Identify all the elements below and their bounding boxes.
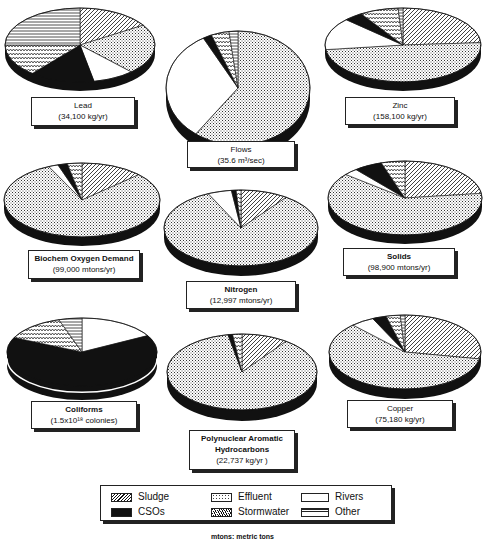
csos-swatch-icon	[111, 508, 132, 517]
legend-label: Effluent	[238, 491, 272, 503]
pie-copper	[329, 315, 481, 399]
chart-total: (98,900 mtons/yr)	[346, 262, 452, 273]
legend-item-stormwater: Stormwater	[211, 506, 289, 518]
chart-total: (75,180 kg/yr)	[350, 414, 450, 425]
chart-total: (12,997 mtons/yr)	[189, 295, 293, 306]
pie-nitrogen	[164, 190, 318, 276]
legend-item-other: Other	[301, 506, 360, 518]
chart-total: (35.6 m³/sec)	[190, 155, 292, 166]
legend-label: Stormwater	[238, 506, 289, 518]
legend-label: CSOs	[138, 506, 165, 518]
footnote: mtons: metric tons	[0, 533, 485, 540]
chart-title: Polynuclear Aromatic	[192, 433, 292, 444]
label-zinc: Zinc (158,100 kg/yr)	[345, 97, 455, 125]
pie-solids	[328, 161, 482, 244]
pie-lead	[5, 8, 155, 91]
label-nitrogen: Nitrogen (12,997 mtons/yr)	[186, 281, 296, 309]
pie-polynuclear-aromatic-hydrocarbons	[167, 334, 317, 421]
chart-title: Zinc	[348, 100, 452, 111]
chart-title: Flows	[190, 144, 292, 155]
chart-title: Copper	[350, 403, 450, 414]
chart-title-line2: Hydrocarbons	[192, 444, 292, 455]
label-copper: Copper (75,180 kg/yr)	[347, 400, 453, 428]
chart-title: Biochem Oxygen Demand	[31, 253, 137, 264]
effluent-swatch-icon	[211, 493, 232, 502]
pie-flows	[166, 31, 310, 157]
slice-other	[5, 8, 80, 45]
chart-total: (22,737 kg/yr )	[192, 455, 292, 466]
chart-total: (99,000 mtons/yr)	[31, 264, 137, 275]
slice-sludge	[405, 161, 481, 198]
legend-item-csos: CSOs	[111, 506, 165, 518]
legend: Sludge Effluent Rivers CSOs Stormwater O…	[100, 485, 392, 521]
legend-item-rivers: Rivers	[301, 491, 363, 503]
label-lead: Lead (34,100 kg/yr)	[31, 97, 135, 126]
other-swatch-icon	[301, 508, 329, 517]
rivers-swatch-icon	[301, 493, 329, 502]
chart-total: (1.5x10¹⁸ colonies)	[34, 415, 134, 426]
legend-label: Sludge	[138, 491, 169, 503]
legend-label: Other	[335, 506, 360, 518]
label-bod: Biochem Oxygen Demand (99,000 mtons/yr)	[28, 250, 140, 279]
pie-biochem-oxygen-demand	[4, 163, 160, 246]
chart-total: (34,100 kg/yr)	[34, 111, 132, 122]
chart-title: Solids	[346, 251, 452, 262]
legend-item-effluent: Effluent	[211, 491, 272, 503]
legend-item-sludge: Sludge	[111, 491, 169, 503]
pie-coliforms	[7, 318, 157, 400]
label-coliforms: Coliforms (1.5x10¹⁸ colonies)	[31, 401, 137, 429]
label-solids: Solids (98,900 mtons/yr)	[343, 248, 455, 276]
slice-sludge	[405, 315, 481, 359]
chart-title: Lead	[34, 100, 132, 111]
chart-total: (158,100 kg/yr)	[348, 111, 452, 122]
pie-zinc	[325, 8, 481, 91]
label-pah: Polynuclear Aromatic Hydrocarbons (22,73…	[189, 430, 295, 470]
chart-title: Coliforms	[34, 404, 134, 415]
sludge-swatch-icon	[111, 493, 132, 502]
stormwater-swatch-icon	[211, 508, 232, 517]
chart-title: Nitrogen	[189, 284, 293, 295]
label-flows: Flows (35.6 m³/sec)	[187, 141, 295, 168]
slice-sludge	[403, 8, 481, 45]
legend-label: Rivers	[335, 491, 363, 503]
